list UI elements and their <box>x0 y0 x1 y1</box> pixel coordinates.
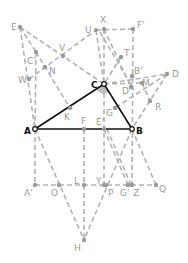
label-n: N <box>49 66 56 76</box>
label-a-prime: A' <box>24 188 33 198</box>
label-f: F <box>81 116 86 126</box>
label-h: H <box>74 243 81 253</box>
label-c: C <box>91 80 98 90</box>
label-k: K <box>64 112 71 122</box>
label-c-prime: C' <box>27 56 36 66</box>
label-d-prime: D' <box>122 86 131 96</box>
label-e: E <box>11 22 17 32</box>
label-y: Y <box>95 176 102 186</box>
label-t: T <box>123 48 130 58</box>
points <box>18 25 169 242</box>
label-d: D <box>172 69 179 79</box>
label-f-prime: F' <box>137 20 145 30</box>
label-z: Z <box>133 188 139 198</box>
label-b-prime: B' <box>134 66 143 76</box>
label-e-prime: E' <box>96 117 104 127</box>
label-g: G <box>106 108 113 118</box>
label-o: O <box>51 188 58 198</box>
label-g-prime: G' <box>120 188 129 198</box>
label-b: B <box>136 126 143 136</box>
geometry-diagram: E U X F' V C' W N T B' D M D' C R K G A … <box>0 0 188 263</box>
label-a: A <box>24 126 31 136</box>
label-u: U <box>85 25 92 35</box>
auxiliary-lines <box>20 27 167 240</box>
label-m: M <box>142 78 150 88</box>
label-x: X <box>100 15 106 25</box>
label-l: L <box>74 176 79 186</box>
label-v: V <box>59 43 66 53</box>
label-q: Q <box>159 184 166 194</box>
label-w: W <box>18 75 27 85</box>
label-p: P <box>108 188 114 198</box>
label-r: R <box>155 102 161 112</box>
